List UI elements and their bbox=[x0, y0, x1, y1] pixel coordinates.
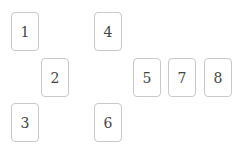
card-4[interactable]: 4 bbox=[94, 12, 122, 51]
card-5[interactable]: 5 bbox=[133, 58, 161, 97]
card-3[interactable]: 3 bbox=[11, 103, 39, 142]
card-6[interactable]: 6 bbox=[94, 103, 122, 142]
card-1[interactable]: 1 bbox=[11, 12, 39, 51]
card-7[interactable]: 7 bbox=[168, 58, 196, 97]
card-8[interactable]: 8 bbox=[204, 58, 232, 97]
card-2[interactable]: 2 bbox=[41, 58, 69, 97]
